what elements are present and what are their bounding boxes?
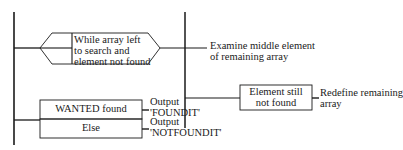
else-condition-text: Else [40,122,142,133]
loop-action-line: of remaining array [210,51,315,62]
found-action-text: Output 'FOUNDIT' [150,96,200,118]
loop-action-text: Examine middle element of remaining arra… [210,40,315,62]
inner-condition-line: Element still [240,86,312,97]
else-action-line: Output [150,116,221,127]
inner-condition-text: Element still not found [240,86,312,108]
inner-action-line: array [320,98,403,109]
loop-condition-text: While array left to search and element n… [74,34,150,67]
loop-condition-line: to search and [74,45,150,56]
loop-condition-line: element not found [74,56,150,67]
inner-action-text: Redefine remaining array [320,87,403,109]
found-condition-text: WANTED found [40,103,142,114]
loop-action-line: Examine middle element [210,40,315,51]
loop-condition-line: While array left [74,34,150,45]
inner-condition-line: not found [240,97,312,108]
found-action-line: Output [150,96,200,107]
inner-action-line: Redefine remaining [320,87,403,98]
else-action-line: 'NOTFOUNDIT' [150,127,221,138]
else-action-text: Output 'NOTFOUNDIT' [150,116,221,138]
